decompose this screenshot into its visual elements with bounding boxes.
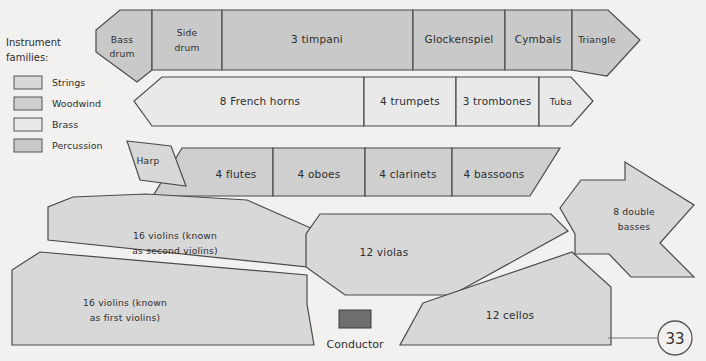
seat-label-glockenspiel: Glockenspiel: [425, 33, 494, 45]
seat-label-cymbals: Cymbals: [515, 33, 562, 45]
legend-label-brass: Brass: [52, 119, 78, 130]
legend-swatch-brass: [14, 118, 42, 131]
conductor-podium[interactable]: [339, 310, 371, 328]
seat-label-first-violins-line1: 16 violins (known: [83, 297, 167, 308]
woodwind-row: 4 flutes 4 oboes 4 clarinets 4 bassoons: [153, 148, 560, 196]
seat-label-first-violins-line2: as first violins): [90, 312, 161, 323]
seat-label-triangle: Triangle: [577, 34, 616, 45]
page-number-text: 33: [665, 330, 684, 348]
seat-label-double-basses-line1: 8 double: [613, 206, 655, 217]
seat-label-bass-drum-line1: Bass: [111, 34, 133, 45]
legend-title-line2: families:: [6, 52, 48, 63]
legend-label-strings: Strings: [52, 77, 85, 88]
seat-label-harp: Harp: [137, 155, 160, 166]
orchestra-seating-plan-page: Instrument families: Strings Woodwind Br…: [0, 0, 706, 361]
legend-swatch-percussion: [14, 139, 42, 152]
seat-side-drum[interactable]: [152, 10, 222, 70]
seat-label-trumpets: 4 trumpets: [380, 95, 440, 107]
seat-label-french-horns: 8 French horns: [220, 95, 300, 107]
conductor-marker: Conductor: [327, 310, 384, 351]
seat-label-trombones: 3 trombones: [463, 95, 532, 107]
seat-label-flutes: 4 flutes: [216, 168, 257, 180]
seat-label-side-drum-line1: Side: [177, 27, 198, 38]
page-number: 33: [608, 321, 692, 355]
seat-label-violas: 12 violas: [360, 246, 409, 258]
legend-title-line1: Instrument: [6, 37, 61, 48]
legend-label-woodwind: Woodwind: [52, 98, 101, 109]
percussion-row: Bass drum Side drum 3 timpani Glockenspi…: [96, 10, 640, 82]
seat-label-side-drum-line2: drum: [174, 42, 199, 53]
seat-label-tuba: Tuba: [549, 96, 572, 107]
seat-label-second-violins-line1: 16 violins (known: [133, 230, 217, 241]
seat-label-double-basses-line2: basses: [618, 221, 651, 232]
legend-swatch-woodwind: [14, 97, 42, 110]
seat-label-clarinets: 4 clarinets: [379, 168, 436, 180]
brass-row: 8 French horns 4 trumpets 3 trombones Tu…: [134, 77, 593, 126]
seat-label-oboes: 4 oboes: [298, 168, 341, 180]
conductor-label: Conductor: [327, 338, 384, 351]
legend: Instrument families: Strings Woodwind Br…: [6, 37, 103, 152]
orchestra-seating-diagram: Instrument families: Strings Woodwind Br…: [0, 0, 706, 361]
seat-bass-drum[interactable]: [96, 10, 152, 82]
seat-label-second-violins-line2: as second violins): [132, 245, 218, 256]
seat-label-timpani: 3 timpani: [291, 33, 343, 45]
seat-label-bassoons: 4 bassoons: [463, 168, 524, 180]
seat-label-cellos: 12 cellos: [486, 309, 534, 321]
legend-label-percussion: Percussion: [52, 140, 103, 151]
legend-swatch-strings: [14, 76, 42, 89]
seat-label-bass-drum-line2: drum: [109, 48, 134, 59]
